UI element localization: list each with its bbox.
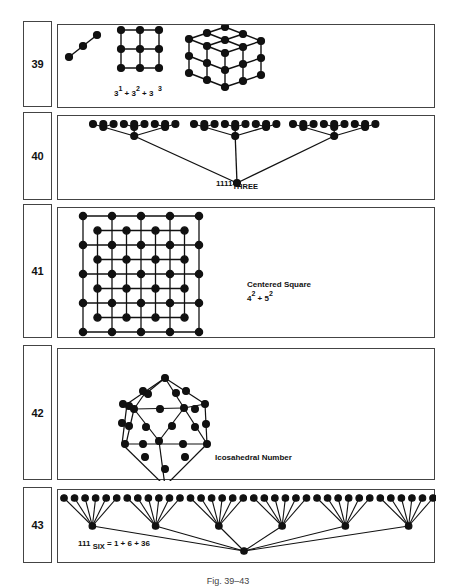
figure-caption: Fig. 39–43 (0, 576, 456, 586)
figure-number: 43 (31, 519, 43, 531)
figure-40-panel: 1111THREE (57, 115, 435, 200)
base: 3 (149, 89, 153, 98)
figure-number: 42 (31, 407, 43, 419)
figure-number: 41 (31, 265, 43, 277)
figure-43-number-box: 43 (23, 487, 52, 563)
figure-41-number-box: 41 (23, 204, 52, 338)
figure-39-panel: 31 + 32 + 3 3 (57, 24, 435, 108)
numeral: 111 (78, 539, 90, 548)
base-three-label: 1111THREE (216, 179, 258, 188)
operator: + (142, 89, 147, 98)
base-six-label: 111 SIX = 1 + 6 + 36 (78, 539, 150, 548)
exponent: 2 (269, 290, 273, 297)
figure-43-senary-tree (58, 490, 436, 564)
operator: + (125, 89, 130, 98)
figure-number: 40 (31, 150, 43, 162)
base-subscript: SIX (93, 542, 105, 551)
figure-43-panel: 111 SIX = 1 + 6 + 36 (57, 489, 435, 563)
exponent: 3 (158, 85, 162, 92)
operator: + (258, 294, 263, 303)
figure-41-panel: Centered Square 42 + 52 (57, 207, 435, 338)
figure-42-panel: Icosahedral Number (57, 348, 435, 480)
exponent: 2 (136, 85, 140, 92)
icosahedral-number-title: Icosahedral Number (215, 453, 292, 462)
figure-40-number-box: 40 (23, 112, 52, 200)
sum-of-powers-expression: 31 + 32 + 3 3 (114, 89, 162, 98)
expansion: = 1 + 6 + 36 (107, 539, 150, 548)
numeral: 1111 (216, 179, 232, 188)
centered-square-expression: 42 + 52 (247, 294, 273, 303)
base-subscript: THREE (232, 182, 257, 191)
figure-39-number-box: 39 (23, 21, 52, 107)
exponent: 1 (118, 85, 122, 92)
figure-42-number-box: 42 (23, 345, 52, 480)
exponent: 2 (251, 290, 255, 297)
figure-number: 39 (31, 58, 43, 70)
figure-41-centered-square (58, 208, 436, 339)
centered-square-title: Centered Square (247, 280, 311, 289)
